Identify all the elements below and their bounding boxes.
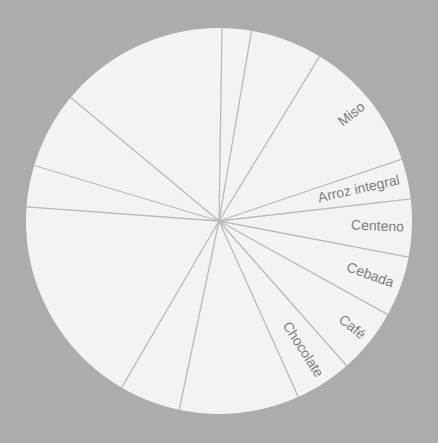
pie-chart: MisoArroz integralCentenoCebadaCaféChoco…	[0, 0, 438, 443]
slice-label-centeno: Centeno	[351, 217, 405, 235]
